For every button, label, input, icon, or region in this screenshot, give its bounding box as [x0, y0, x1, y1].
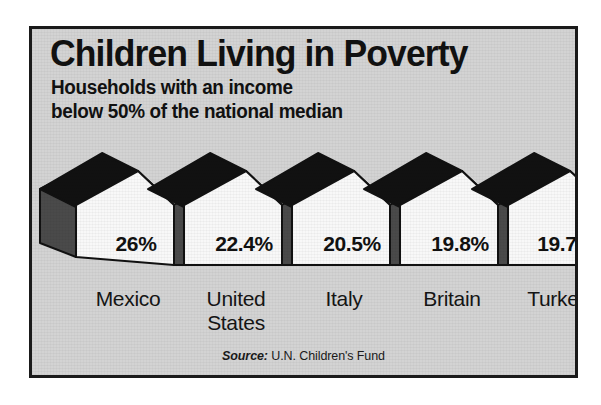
- house-bar-mexico: 26%: [40, 153, 174, 265]
- house-value-label: 20.5%: [323, 232, 381, 255]
- category-label-line-1: Mexico: [68, 287, 188, 311]
- category-label-line-2: States: [176, 311, 296, 335]
- subtitle-line-1: Households with an income: [51, 76, 343, 100]
- source-text: U.N. Children's Fund: [271, 349, 385, 363]
- category-axis-labels: Mexico United States Italy Britain Turke…: [32, 287, 575, 349]
- house-chart: 26% 22.4% 20.5%: [32, 147, 575, 279]
- source-note: Source: U.N. Children's Fund: [32, 349, 575, 363]
- category-label-mexico: Mexico: [68, 287, 188, 311]
- house-side-face: [498, 199, 508, 265]
- chart-panel: Children Living in Poverty Households wi…: [29, 26, 578, 378]
- category-label-line-1: United: [176, 287, 296, 311]
- infographic-figure: Children Living in Poverty Households wi…: [0, 0, 601, 405]
- category-label-britain: Britain: [392, 287, 512, 311]
- house-value-label: 19.7%: [537, 232, 575, 255]
- category-label-united-states: United States: [176, 287, 296, 335]
- house-value-label: 19.8%: [431, 232, 489, 255]
- house-side-face: [174, 199, 184, 265]
- house-value-label: 26%: [116, 232, 158, 255]
- chart-subtitle: Households with an income below 50% of t…: [51, 76, 343, 123]
- category-label-turkey: Turkey: [498, 287, 578, 311]
- category-label-italy: Italy: [284, 287, 404, 311]
- page-title: Children Living in Poverty: [50, 33, 468, 74]
- house-side-face: [390, 199, 400, 265]
- house-value-label: 22.4%: [215, 232, 273, 255]
- category-label-line-1: Britain: [392, 287, 512, 311]
- category-label-line-1: Turkey: [498, 287, 578, 311]
- house-side-face: [282, 199, 292, 265]
- source-label: Source:: [222, 349, 268, 363]
- subtitle-line-2: below 50% of the national median: [51, 100, 343, 124]
- category-label-line-1: Italy: [284, 287, 404, 311]
